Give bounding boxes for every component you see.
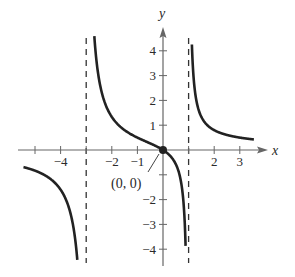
origin-point-label: (0, 0) (111, 176, 142, 192)
y-tick-label: 1 (150, 118, 157, 133)
x-tick-label: 3 (237, 154, 244, 169)
function-curves (23, 36, 253, 260)
annotation-leader-line (148, 154, 159, 172)
origin-point-marker (159, 146, 167, 154)
y-tick-label: 3 (150, 68, 157, 83)
curve-branch-middle (94, 36, 185, 246)
y-tick-label: −4 (142, 242, 156, 257)
annotations: (0, 0) (111, 146, 167, 192)
y-tick-label: −3 (142, 217, 156, 232)
y-tick-label: 2 (150, 93, 157, 108)
function-graph: xy −4−2−1234321−2−3−4 (0, 0) (0, 0, 295, 277)
y-tick-label: 4 (150, 43, 157, 58)
x-tick-label: −1 (130, 154, 144, 169)
x-axis-label: x (271, 143, 279, 158)
x-tick-label: −2 (105, 154, 119, 169)
y-axis-label: y (157, 6, 166, 21)
x-tick-label: 2 (211, 154, 218, 169)
x-tick-label: −4 (54, 154, 68, 169)
curve-branch-right (192, 44, 254, 139)
y-tick-label: −2 (142, 192, 156, 207)
curve-branch-left (23, 167, 77, 260)
